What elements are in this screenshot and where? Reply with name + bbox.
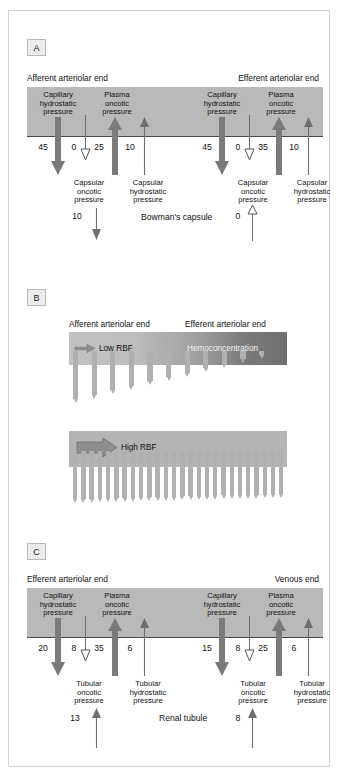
filtration-arrow [222, 351, 227, 364]
panel-c-net-arrow-right [247, 708, 258, 748]
panel-a-lower-label-1: Capsular oncotic pressure [63, 179, 115, 205]
panel-a-value-7: 10 [286, 142, 302, 152]
filtration-arrow [110, 351, 115, 390]
panel-a-lower-label-3: Capsular hydrostatic pressure [119, 179, 177, 205]
panel-b-label-left: Afferent arteriolar end [69, 319, 150, 329]
filtration-arrow [205, 451, 209, 496]
panel-c-value-6: 25 [255, 643, 271, 653]
filtration-arrow [73, 351, 78, 399]
panel-c-net-arrow-left [91, 708, 102, 748]
panel-tag-a: A [27, 39, 46, 56]
panel-a-net-value-left: 10 [69, 211, 85, 221]
panel-a-arrow-capsular-oncotic-right [244, 115, 255, 163]
panel-a-net-arrow-left [91, 208, 102, 240]
panel-c-arrow-plasma-oncotic-left [108, 618, 122, 676]
filtration-arrow [89, 451, 93, 499]
panel-a-label-left: Afferent arteriolar end [27, 73, 108, 83]
filtration-arrow [155, 451, 159, 497]
panel-c-arrow-tubular-oncotic-right [244, 616, 255, 664]
panel-b-flow-label-low-rbf: Low RBF [99, 344, 133, 353]
panel-a-value-6: 35 [255, 142, 271, 152]
filtration-arrow [246, 451, 250, 495]
panel-a-value-3: 10 [122, 142, 138, 152]
panel-a-compartment-label: Bowman's capsule [141, 212, 212, 222]
filtration-arrow [73, 451, 77, 499]
filtration-arrow [147, 351, 152, 381]
panel-c-arrow-plasma-oncotic-right [272, 618, 286, 676]
panel-tag-c: C [27, 543, 46, 560]
panel-a-force-label-4: Capillary hydrostatic pressure [193, 91, 251, 117]
filtration-arrow [129, 351, 134, 386]
filtration-arrow [230, 451, 234, 495]
panel-a-value-0: 45 [35, 142, 51, 152]
filtration-arrow [238, 451, 242, 495]
panel-a-value-2: 25 [91, 142, 107, 152]
panel-a-arrow-capsular-hydrostatic-left [139, 117, 150, 175]
panel-a-value-4: 45 [199, 142, 215, 152]
filtration-arrow [185, 351, 190, 373]
filtration-arrow [279, 451, 283, 494]
filtration-arrow [263, 451, 267, 494]
panel-a-lower-label-5: Capsular oncotic pressure [227, 179, 279, 205]
filtration-arrow [114, 451, 118, 498]
panel-a-arrow-tubular-hydrostatic-right [303, 117, 314, 175]
panel-a-value-1: 0 [67, 142, 81, 152]
panel-a-force-label-2: Plasma oncotic pressure [91, 91, 143, 117]
filtration-arrow [203, 351, 208, 368]
filtration-arrow [213, 451, 217, 496]
panel-a-arrow-plasma-oncotic-left [108, 117, 122, 175]
panel-a-net-value-right: 0 [231, 211, 245, 221]
panel-c-net-value-left: 13 [67, 713, 83, 723]
panel-c-force-label-2: Plasma oncotic pressure [91, 592, 143, 618]
panel-c-force-label-6: Plasma oncotic pressure [255, 592, 307, 618]
filtration-arrow [106, 451, 110, 498]
panel-c-label-right: Venous end [275, 574, 319, 584]
panel-c-force-label-4: Capillary hydrostatic pressure [193, 592, 251, 618]
panel-c-lower-label-3: Tubular hydrostatic pressure [119, 680, 177, 706]
panel-a-label-right: Efferent arteriolar end [238, 73, 319, 83]
panel-c-value-5: 8 [231, 643, 245, 653]
panel-c-lower-label-5: Tubular oncotic pressure [227, 680, 279, 706]
panel-c-value-2: 35 [91, 643, 107, 653]
filtration-arrow [147, 451, 151, 497]
filtration-arrow [122, 451, 126, 498]
filtration-arrow [259, 351, 264, 355]
panel-c-force-label-0: Capillary hydrostatic pressure [29, 592, 87, 618]
panel-a-force-label-0: Capillary hydrostatic pressure [29, 91, 87, 117]
panel-c-compartment-label: Renal tubule [159, 713, 207, 723]
panel-c-value-4: 15 [199, 643, 215, 653]
panel-b-label-right: Efferent arteriolar end [185, 319, 266, 329]
panel-c-arrow-tubular-oncotic-left [80, 616, 91, 664]
figure-frame: A Afferent arteriolar end Efferent arter… [8, 10, 330, 767]
panel-c-arrow-tubular-hydrostatic-left [139, 618, 150, 676]
panel-c-value-1: 8 [67, 643, 81, 653]
panel-a-arrow-plasma-oncotic-right [272, 117, 286, 175]
panel-c-net-value-right: 8 [231, 713, 245, 723]
filtration-arrow [131, 451, 135, 498]
filtration-arrow [180, 451, 184, 496]
filtration-arrow [92, 351, 97, 395]
panel-a-lower-label-7: Capsular hydrostatic pressure [283, 179, 340, 205]
panel-c-arrow-capillary-hydrostatic-left [51, 618, 65, 676]
filtration-arrow [240, 351, 245, 359]
panel-c-lower-label-1: Tubular oncotic pressure [63, 680, 115, 706]
filtration-arrow [197, 451, 201, 496]
panel-a-net-arrow-right [247, 205, 258, 241]
filtration-arrow [221, 451, 225, 495]
filtration-arrow [188, 451, 192, 496]
panel-a-arrow-capillary-hydrostatic-left [51, 117, 65, 175]
filtration-arrow [139, 451, 143, 497]
panel-c-arrow-tubular-hydrostatic-right [303, 618, 314, 676]
filtration-arrow [254, 451, 258, 495]
panel-c-label-left: Efferent arteriolar end [27, 574, 108, 584]
panel-a-value-5: 0 [231, 142, 245, 152]
panel-c-value-3: 6 [122, 643, 138, 653]
filtration-arrow [164, 451, 168, 497]
panel-a-arrow-capillary-hydrostatic-right [215, 117, 229, 175]
filtration-arrow [166, 351, 171, 377]
filtration-arrow [98, 451, 102, 498]
panel-a-arrow-capsular-oncotic-left [80, 115, 91, 163]
filtration-arrow [271, 451, 275, 494]
panel-c-value-0: 20 [35, 643, 51, 653]
panel-c-arrow-capillary-hydrostatic-right [215, 618, 229, 676]
